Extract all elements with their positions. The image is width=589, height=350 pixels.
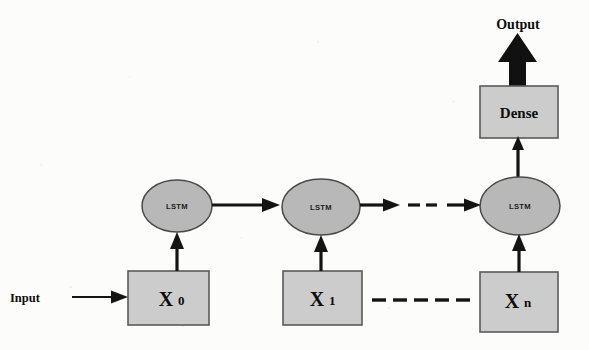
diagram-canvas: Dense LSTM LSTM LSTM: [0, 0, 589, 350]
lstm-diagram: Dense LSTM LSTM LSTM: [0, 0, 589, 350]
output-label: Output: [496, 17, 540, 32]
input-node-0[interactable]: X 0: [128, 271, 209, 325]
lstm-cell-1[interactable]: LSTM: [282, 179, 360, 235]
lstm-cell-0[interactable]: LSTM: [142, 180, 212, 232]
input-node-n[interactable]: X n: [480, 272, 558, 332]
lstm-cell-n[interactable]: LSTM: [480, 177, 560, 235]
ellipsis-to-celln-arrow: [447, 199, 481, 212]
lstm-cell-0-label: LSTM: [166, 202, 188, 211]
dense-label: Dense: [500, 105, 539, 121]
cell0-to-cell1-arrow: [212, 198, 280, 212]
input-box-n-label: X: [505, 290, 520, 312]
input1-to-cell1-arrow: [314, 235, 328, 271]
input-box-1-sublabel: 1: [329, 293, 336, 308]
input-entry: Input: [10, 291, 128, 306]
input-box-1-label: X: [310, 288, 325, 310]
output-arrow: [498, 33, 537, 88]
input-label: Input: [10, 291, 41, 305]
lstm-cell-n-label: LSTM: [509, 202, 531, 211]
input-box-0-label: X: [159, 288, 174, 310]
input-node-1[interactable]: X 1: [283, 271, 362, 325]
dense-node[interactable]: Dense: [480, 86, 558, 138]
inputn-to-celln-arrow: [512, 234, 526, 272]
input-box-0-sublabel: 0: [178, 293, 185, 308]
lstmn-to-dense-arrow: [512, 136, 524, 178]
input-box-n-sublabel: n: [524, 295, 532, 310]
cell1-to-ellipsis-arrow: [360, 199, 400, 212]
lstm-cell-1-label: LSTM: [310, 203, 332, 212]
input0-to-cell0-arrow: [170, 232, 184, 271]
